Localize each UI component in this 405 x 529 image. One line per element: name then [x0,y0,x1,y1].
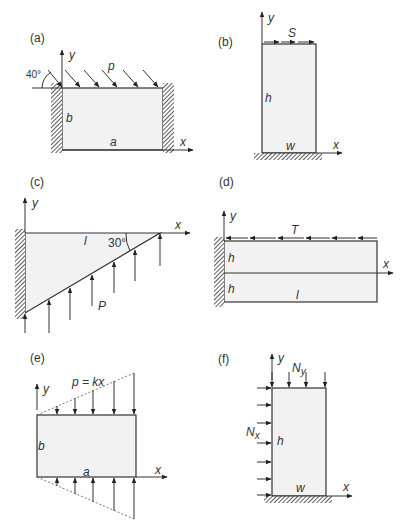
height-bottom-label-d: h [228,282,235,296]
height-label-a: b [66,111,73,125]
width-label-b: w [286,139,296,153]
compression-arrows-left-f [257,388,271,495]
panel-c-label: (c) [30,175,44,189]
pressure-arrows-a [48,70,158,87]
y-axis-label-c: y [31,196,39,210]
clamp-left-d [214,237,224,307]
load-label-e: p = kx [71,375,105,389]
clamp-left-c [15,229,25,319]
x-axis-label-a: x [179,135,187,149]
y-axis-label-d: y [229,209,237,223]
load-y-label-f: Ny [292,361,307,377]
panel-d-label: (d) [219,175,234,189]
load-x-label-f: Nx [246,425,261,441]
height-top-label-d: h [228,251,235,265]
x-axis-label-f: x [342,480,350,494]
panel-d: (d) y x T h h l [214,175,393,307]
load-label-c: P [98,299,106,313]
width-label-e: a [83,465,90,479]
length-label-c: l [84,234,87,248]
clamp-base-f [264,496,332,503]
panel-a: (a) y x 40° p b a [26,31,193,153]
panel-b: (b) y x S h w [218,11,342,160]
clamp-right-a [163,83,174,153]
angle-arc-a [42,72,51,88]
clamp-left-a [51,83,62,153]
panel-a-label: (a) [30,31,45,45]
x-axis-label-e: x [154,463,162,477]
panel-c: (c) y x 30° l P [15,175,190,333]
angle-label-a: 40° [26,69,41,80]
y-axis-label-e: y [42,382,50,396]
panel-e-label: (e) [30,351,45,365]
width-label-f: w [296,481,306,495]
x-axis-label-b: x [332,138,340,152]
x-axis-label-c: x [174,218,182,232]
y-axis-label-a: y [68,48,76,62]
y-axis-label-f: y [277,351,285,365]
y-axis-label-b: y [267,11,275,25]
panel-f-label: (f) [218,352,229,366]
panel-b-label: (b) [218,35,233,49]
figure-canvas: (a) y x 40° p b a (b) y x [0,0,405,529]
height-label-b: h [265,91,272,105]
height-label-e: b [38,439,45,453]
x-axis-label-d: x [382,257,390,271]
plate-d [224,241,377,302]
panel-f: (f) y x Ny Nx h w [218,351,352,503]
pressure-arrows-bottom-e [57,478,134,519]
width-label-a: a [110,135,117,149]
load-label-a: p [107,59,115,73]
load-label-b: S [288,26,296,40]
load-label-d: T [291,223,300,237]
panel-e: (e) y x p = kx b a [30,351,167,519]
length-label-d: l [296,288,299,302]
height-label-f: h [277,434,284,448]
angle-label-c: 30° [108,236,126,250]
load-envelope-bottom-e [37,477,134,519]
clamp-base-b [254,153,322,160]
